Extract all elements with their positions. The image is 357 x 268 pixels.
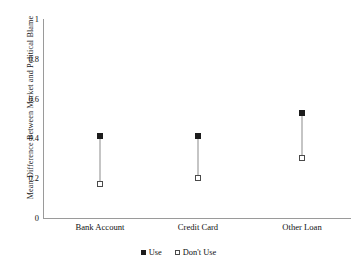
plot-area: 00.20.40.60.81 Bank AccountCredit CardOt… (43, 19, 351, 218)
y-axis-title: Mean Difference Between Market and Polit… (26, 0, 35, 218)
y-tick-label: 0.4 (29, 134, 39, 143)
connector-line (100, 136, 101, 184)
chart-figure: Mean Difference Between Market and Polit… (0, 0, 357, 268)
x-tick-label: Bank Account (76, 222, 125, 232)
connector-line (302, 113, 303, 159)
connector-line (198, 136, 199, 178)
x-axis-line (43, 218, 351, 219)
legend-label: Don't Use (183, 248, 216, 257)
open-square-icon (175, 250, 180, 255)
y-tick-label: 0.6 (29, 94, 39, 103)
legend-label: Use (149, 248, 162, 257)
x-tick-label: Other Loan (282, 222, 321, 232)
data-point-dont-use (299, 155, 305, 161)
data-point-dont-use (195, 175, 201, 181)
y-axis-line (43, 19, 44, 218)
data-point-dont-use (97, 181, 103, 187)
y-tick-label: 0 (35, 214, 39, 223)
legend: UseDon't Use (0, 248, 357, 257)
y-tick-label: 0.2 (29, 174, 39, 183)
x-tick-label: Credit Card (178, 222, 218, 232)
y-tick-label: 0.8 (29, 54, 39, 63)
legend-entry: Use (141, 248, 162, 257)
y-tick-label: 1 (35, 15, 39, 24)
filled-square-icon (141, 250, 146, 255)
legend-entry: Don't Use (175, 248, 216, 257)
data-point-use (195, 133, 201, 139)
data-point-use (97, 133, 103, 139)
data-point-use (299, 110, 305, 116)
